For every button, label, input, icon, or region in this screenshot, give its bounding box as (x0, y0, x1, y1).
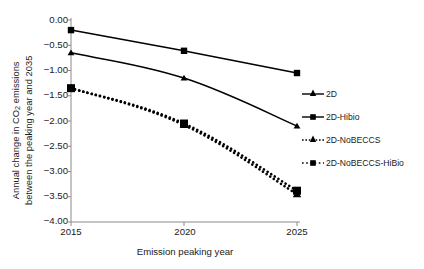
legend-label: 2D (324, 89, 337, 99)
data-point-square (294, 70, 300, 76)
legend-item-2d[interactable]: 2D (302, 82, 424, 105)
series-line (71, 88, 297, 191)
legend-key-triangle-solid-icon (302, 87, 324, 101)
legend-label: 2D-NoBECCS-HiBio (324, 158, 404, 168)
data-point-triangle (68, 49, 75, 55)
legend-item-2d-nobeccs[interactable]: 2D-NoBECCS (302, 128, 424, 151)
legend-key-triangle-dotted-icon (302, 133, 324, 147)
data-point-square (181, 48, 187, 54)
legend-key-square-solid-icon (302, 110, 324, 124)
series-line (71, 53, 297, 126)
y-axis-tick-marks (67, 20, 71, 222)
legend-item-2d-nobeccs-hibio[interactable]: 2D-NoBECCS-HiBio (302, 151, 424, 174)
data-point-square (293, 187, 301, 195)
data-point-square (180, 120, 188, 128)
data-point-square (68, 27, 74, 33)
chart-figure: Annual change in CO2 emissions between t… (0, 0, 424, 269)
series-line (71, 88, 297, 194)
data-point-square (67, 84, 75, 92)
series-layer (67, 27, 302, 197)
chart-legend: 2D 2D-Hibio 2D-NoBECCS (302, 82, 424, 174)
x-axis-tick-marks (71, 222, 297, 226)
legend-label: 2D-NoBECCS (324, 135, 380, 145)
legend-label: 2D-Hibio (324, 112, 359, 122)
legend-key-square-dotted-icon (302, 156, 324, 170)
legend-item-2d-hibio[interactable]: 2D-Hibio (302, 105, 424, 128)
